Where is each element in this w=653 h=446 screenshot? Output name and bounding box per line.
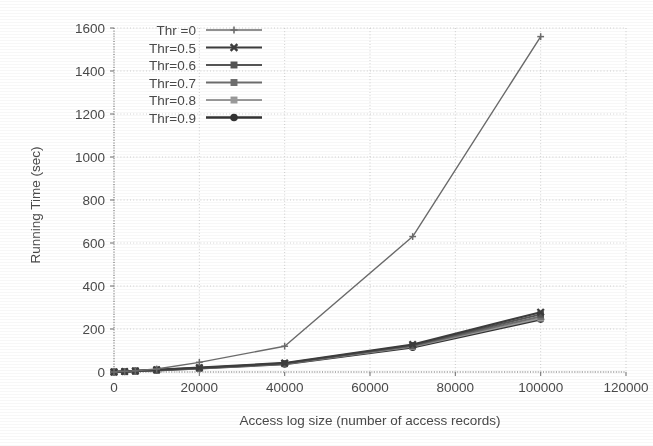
legend-label: Thr=0.5 [149, 41, 196, 56]
y-tick-label: 1600 [75, 21, 105, 36]
x-tick-label: 60000 [351, 380, 389, 395]
x-tick-label: 40000 [266, 380, 304, 395]
x-tick-label: 120000 [603, 380, 648, 395]
legend-label: Thr=0.9 [149, 111, 196, 126]
data-point-marker [231, 79, 238, 86]
x-axis-title: Access log size (number of access record… [239, 413, 500, 428]
chart-figure: 0200400600800100012001400160002000040000… [0, 0, 653, 446]
legend-label: Thr=0.8 [149, 93, 196, 108]
y-tick-label: 1200 [75, 107, 105, 122]
x-tick-label: 20000 [181, 380, 219, 395]
y-tick-label: 0 [97, 365, 105, 380]
y-tick-label: 1000 [75, 150, 105, 165]
data-point-marker [231, 62, 238, 69]
y-tick-label: 800 [82, 193, 105, 208]
legend-label: Thr =0 [157, 23, 196, 38]
y-tick-label: 1400 [75, 64, 105, 79]
legend-label: Thr=0.6 [149, 58, 196, 73]
y-tick-label: 200 [82, 322, 105, 337]
x-tick-label: 80000 [437, 380, 475, 395]
running-time-line-chart: 0200400600800100012001400160002000040000… [0, 0, 653, 446]
data-point-marker [230, 114, 238, 122]
legend-label: Thr=0.7 [149, 76, 196, 91]
data-point-marker [231, 97, 238, 104]
x-tick-label: 0 [110, 380, 118, 395]
y-tick-label: 400 [82, 279, 105, 294]
y-tick-label: 600 [82, 236, 105, 251]
y-axis-title: Running Time (sec) [28, 146, 43, 263]
x-tick-label: 100000 [518, 380, 563, 395]
